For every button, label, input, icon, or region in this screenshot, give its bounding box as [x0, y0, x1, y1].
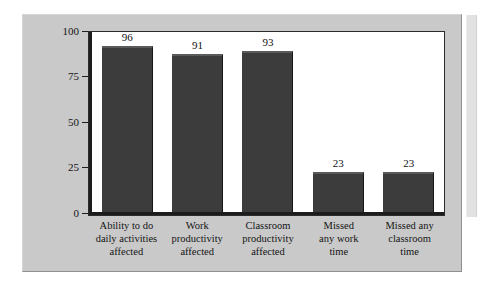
plot-inner: 96 91 93 23 23 — [89, 32, 444, 215]
bar-slot: 96 — [102, 32, 153, 212]
x-label-line: affected — [233, 245, 304, 258]
bar-value-label: 93 — [262, 37, 273, 48]
x-label-line: Ability to do — [91, 219, 162, 232]
x-label-line: time — [303, 245, 374, 258]
x-label-line: time — [374, 245, 445, 258]
x-label-ability-to-do-daily-activities-affected: Ability to do daily activities affected — [91, 219, 162, 258]
x-axis-line — [89, 212, 444, 215]
bar-rect[interactable] — [313, 172, 364, 212]
bar-slot: 23 — [313, 32, 364, 212]
bar-rect[interactable] — [172, 54, 223, 212]
x-label-line: daily activities — [91, 232, 162, 245]
bar-value-label: 23 — [333, 158, 344, 169]
figure-panel: Patients, % 100 75 50 25 0 96 — [22, 14, 462, 272]
x-label-line: productivity — [162, 232, 233, 245]
x-label-line: productivity — [233, 232, 304, 245]
x-label-classroom-productivity-affected: Classroom productivity affected — [233, 219, 304, 258]
bar-value-label: 96 — [122, 32, 133, 43]
bar-value-label: 91 — [192, 40, 203, 51]
y-tick-label: 0 — [74, 208, 83, 219]
bar-slot: 91 — [172, 32, 223, 212]
y-axis: Patients, % 100 75 50 25 0 — [66, 31, 88, 216]
x-label-line: Missed — [303, 219, 374, 232]
x-label-line: Classroom — [233, 219, 304, 232]
y-tick-label: 25 — [68, 162, 82, 173]
bar-rect[interactable] — [102, 46, 153, 212]
x-label-line: classroom — [374, 232, 445, 245]
bar-value-label: 23 — [403, 158, 414, 169]
y-tick-label: 75 — [68, 71, 82, 82]
x-label-missed-any-work-time: Missed any work time — [303, 219, 374, 258]
bars-layer: 96 91 93 23 23 — [92, 32, 444, 212]
bar-slot: 23 — [383, 32, 434, 212]
bar-rect[interactable] — [242, 51, 293, 212]
x-label-line: any work — [303, 232, 374, 245]
bar-rect[interactable] — [383, 172, 434, 212]
page-side-strip — [466, 15, 477, 217]
y-tick-label: 100 — [63, 26, 83, 37]
x-label-work-productivity-affected: Work productivity affected — [162, 219, 233, 258]
x-label-line: Work — [162, 219, 233, 232]
bar-slot: 93 — [242, 32, 293, 212]
x-label-line: affected — [162, 245, 233, 258]
x-label-missed-any-classroom-time: Missed any classroom time — [374, 219, 445, 258]
plot-area: 96 91 93 23 23 — [88, 31, 445, 216]
x-label-line: Missed any — [374, 219, 445, 232]
y-tick-label: 50 — [68, 117, 82, 128]
x-axis-labels: Ability to do daily activities affected … — [91, 219, 445, 258]
x-label-line: affected — [91, 245, 162, 258]
